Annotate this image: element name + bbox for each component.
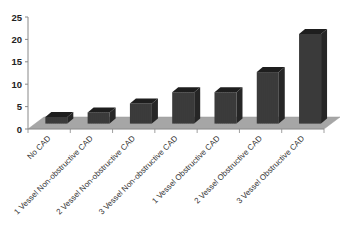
x-category-label: 2 Vessel Obstructive CAD (193, 134, 265, 206)
x-axis-labels: No CAD1 Vessel Non-obstructive CAD2 Vess… (12, 134, 306, 217)
bar (45, 112, 73, 124)
y-tick-label: 0 (17, 124, 22, 135)
x-category-label: 2 Vessel Non-obstructive CAD (55, 134, 138, 217)
x-category-label: 1 Vessel Obstructive CAD (150, 134, 222, 206)
y-axis: 0510152025 (11, 12, 28, 135)
bar (172, 87, 200, 123)
y-tick-label: 25 (11, 12, 22, 23)
x-category-label: 3 Vessel Non-obstructive CAD (97, 134, 180, 217)
bar (257, 67, 285, 124)
x-category-label: 3 Vessel Obstructive CAD (235, 134, 307, 206)
y-tick-label: 5 (17, 101, 23, 112)
y-tick-label: 10 (11, 79, 22, 90)
bars (45, 29, 327, 124)
x-category-label: No CAD (25, 134, 52, 161)
bar (214, 87, 242, 123)
bar-chart: 0510152025 No CAD1 Vessel Non-obstructiv… (0, 0, 351, 234)
y-tick-label: 20 (11, 34, 22, 45)
x-category-label: 1 Vessel Non-obstructive CAD (12, 134, 95, 217)
bar (299, 29, 327, 124)
bar (88, 107, 116, 123)
y-tick-label: 15 (11, 56, 22, 67)
bar (130, 98, 158, 123)
chart-canvas: 0510152025 No CAD1 Vessel Non-obstructiv… (0, 0, 351, 234)
